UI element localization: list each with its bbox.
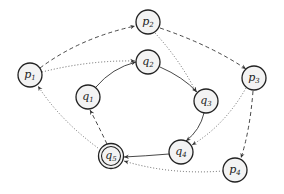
node-label: q <box>142 55 149 68</box>
node-p4[interactable]: p4 <box>223 158 247 182</box>
node-label: p <box>229 163 236 176</box>
node-q3[interactable]: q3 <box>194 89 218 113</box>
state-diagram: p1 p2 p3 p4 q1 q2 q3 q4 <box>0 0 284 194</box>
edge-p1-q2 <box>42 61 135 72</box>
node-q2[interactable]: q2 <box>136 50 160 74</box>
node-q1[interactable]: q1 <box>76 85 100 109</box>
node-label: p <box>142 15 149 28</box>
edge-q1-q2 <box>96 62 136 87</box>
edges <box>38 26 253 172</box>
node-q4[interactable]: q4 <box>169 140 193 164</box>
edge-q3-q4 <box>186 113 204 141</box>
edge-p2-p3 <box>160 28 246 69</box>
node-label: q <box>200 94 207 107</box>
node-label: q <box>105 149 112 162</box>
edge-q5-q1 <box>90 110 107 144</box>
edge-q2-q3 <box>160 67 197 92</box>
node-label: p <box>24 68 31 81</box>
node-p2[interactable]: p2 <box>136 10 160 34</box>
edge-q4-q5 <box>124 154 169 157</box>
edge-p2-q3 <box>155 33 196 92</box>
node-label: q <box>82 90 89 103</box>
node-label: q <box>175 145 182 158</box>
node-p3[interactable]: p3 <box>242 66 266 90</box>
edge-p4-q5 <box>124 161 223 172</box>
node-label: p <box>248 71 255 84</box>
node-p1[interactable]: p1 <box>18 63 42 87</box>
edge-p3-p4 <box>241 91 253 158</box>
edge-p1-p2 <box>40 26 135 68</box>
node-q5-accepting[interactable]: q5 <box>99 144 124 169</box>
